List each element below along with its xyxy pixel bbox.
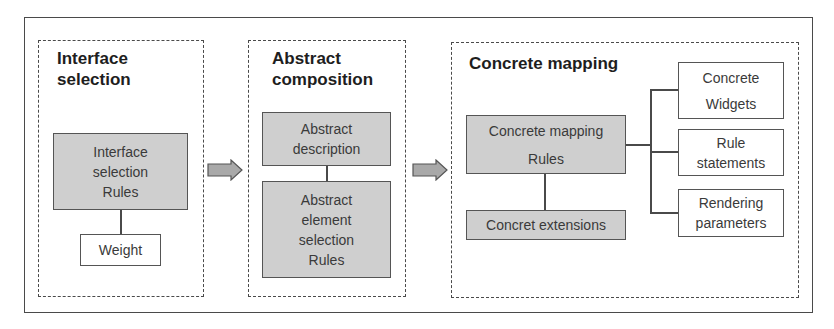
connector-line [650, 212, 678, 214]
connector-line [326, 166, 328, 181]
interface-selection-rules-box: Interface selection Rules [53, 133, 188, 210]
title-line: Abstract [272, 48, 373, 69]
abstract-element-selection-rules-box: Abstract element selection Rules [262, 181, 391, 278]
rule-statements-box: Rule statements [678, 129, 784, 176]
box-line: Concrete mapping [489, 117, 603, 145]
box-line: Rules [299, 250, 354, 270]
box-line: statements [697, 153, 765, 173]
box-line: Widgets [703, 91, 760, 117]
box-line: Weight [99, 240, 142, 260]
box-line: Interface [93, 142, 148, 162]
arrow-right-icon [412, 159, 448, 181]
box-line: Rules [93, 182, 148, 202]
stage-title-interface-selection: Interface selection [57, 48, 131, 90]
connector-line [544, 174, 546, 210]
box-line: selection [93, 162, 148, 182]
box-line: selection [299, 230, 354, 250]
connector-line [626, 144, 651, 146]
concrete-mapping-rules-box: Concrete mapping Rules [466, 115, 626, 174]
connector-line [650, 151, 678, 153]
concret-extensions-box: Concret extensions [466, 210, 626, 240]
box-line: Rendering [696, 193, 767, 213]
concrete-widgets-box: Concrete Widgets [678, 62, 784, 119]
box-line: element [299, 210, 354, 230]
box-line: description [293, 139, 361, 159]
rendering-parameters-box: Rendering parameters [678, 189, 784, 237]
box-line: Abstract [293, 119, 361, 139]
title-line: Interface [57, 48, 131, 69]
title-line: composition [272, 69, 373, 90]
box-line: Abstract [299, 190, 354, 210]
connector-line [120, 210, 122, 234]
box-line: Rule [697, 133, 765, 153]
box-line: Concrete [703, 65, 760, 91]
stage-title-concrete-mapping: Concrete mapping [469, 53, 618, 74]
abstract-description-box: Abstract description [262, 112, 391, 166]
box-line: Rules [489, 145, 603, 173]
arrow-right-icon [207, 159, 243, 181]
stage-title-abstract-composition: Abstract composition [272, 48, 373, 90]
weight-box: Weight [80, 234, 161, 266]
connector-line [650, 89, 678, 91]
box-line: parameters [696, 213, 767, 233]
title-line: selection [57, 69, 131, 90]
title-line: Concrete mapping [469, 53, 618, 74]
box-line: Concret extensions [486, 215, 606, 235]
